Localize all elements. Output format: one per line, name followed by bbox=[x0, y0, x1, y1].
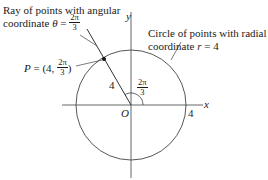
ray-theta bbox=[87, 29, 131, 105]
circle-label-line2: coordinate r = 4 bbox=[148, 40, 219, 52]
x-axis-label: x bbox=[204, 98, 209, 110]
point-P bbox=[102, 57, 106, 61]
angle-label: 2π3 bbox=[137, 78, 148, 97]
x-tick-4: 4 bbox=[188, 107, 194, 119]
ray-label-line2: coordinate θ = 2π3 bbox=[3, 17, 80, 32]
origin-label: O bbox=[121, 107, 129, 119]
ray-label-line1: Ray of points with angular bbox=[3, 4, 120, 16]
leader-point bbox=[76, 60, 102, 66]
circle-label-line1: Circle of points with radial bbox=[148, 27, 267, 39]
point-P-label: P = (4, 2π3) bbox=[24, 62, 71, 77]
radius-label: 4 bbox=[109, 79, 115, 91]
ray-angle-fraction: 2π3 bbox=[69, 13, 80, 32]
y-axis-label: y bbox=[126, 10, 131, 22]
leader-ray bbox=[80, 35, 97, 46]
